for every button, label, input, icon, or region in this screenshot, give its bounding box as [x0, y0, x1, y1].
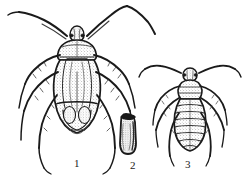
figure-label-1: 1 [74, 158, 80, 169]
adult-forewings [54, 60, 101, 134]
egg-figure [120, 114, 136, 154]
adult-left-antenna [8, 12, 67, 39]
nymph-left-antenna [139, 66, 181, 77]
illustration-plate: 1 2 3 [0, 0, 247, 180]
figure-label-3: 3 [185, 159, 191, 170]
adult-left-legs [19, 55, 60, 174]
insect-plate-drawing [0, 0, 247, 180]
nymph-abdomen [174, 99, 206, 151]
figure-label-2: 2 [130, 160, 136, 171]
adult-right-antenna [87, 6, 155, 39]
nymph-right-antenna [199, 66, 241, 77]
nymph-figure [139, 66, 241, 166]
nymph-head [183, 68, 197, 81]
adult-pronotum [58, 40, 97, 60]
